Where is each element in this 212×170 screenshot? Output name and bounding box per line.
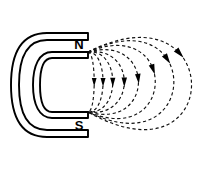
magnetic-field-lines	[88, 37, 192, 129]
field-loop-8-direction-arrow	[174, 47, 186, 59]
field-loop-4-direction-arrow	[122, 78, 127, 88]
north-pole-label: N	[74, 37, 83, 52]
field-loop-1-direction-arrow	[92, 78, 97, 87]
field-loop-6	[88, 45, 155, 118]
field-loop-2-direction-arrow	[101, 78, 106, 87]
pole-labels: N S	[74, 37, 83, 133]
field-loop-3-direction-arrow	[110, 78, 115, 87]
field-loop-3	[88, 52, 113, 112]
field-loop-2	[88, 52, 103, 112]
south-pole-label: S	[75, 118, 84, 133]
field-loop-6-direction-arrow	[149, 64, 158, 76]
diagram-canvas: N S	[0, 0, 212, 170]
magnet-inner-outline	[33, 52, 88, 118]
field-loop-7	[88, 41, 174, 124]
magnetic-field-diagram: N S	[0, 0, 212, 170]
